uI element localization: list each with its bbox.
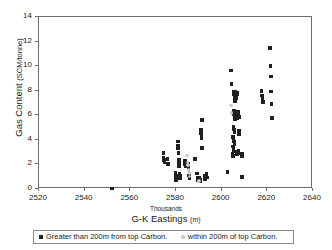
data-point xyxy=(235,96,239,100)
x-tick-label: 2620 xyxy=(246,194,286,202)
x-tick-mark xyxy=(175,188,176,191)
data-point xyxy=(230,111,233,114)
data-point xyxy=(237,133,241,137)
y-tick-label: 8 xyxy=(2,86,32,94)
data-point xyxy=(185,154,188,157)
data-point xyxy=(269,64,273,68)
x-axis-title-text: G-K Eastings xyxy=(131,213,187,224)
data-point xyxy=(166,162,170,166)
x-tick-mark xyxy=(221,188,222,191)
data-point xyxy=(177,164,181,168)
data-point xyxy=(261,100,265,104)
y-tick-label: 6 xyxy=(2,110,32,118)
data-point xyxy=(260,89,264,93)
filled-square-icon xyxy=(39,235,43,239)
legend-label-far: Greater than 200m from top Carbon. xyxy=(46,233,167,241)
x-tick-label: 2580 xyxy=(155,194,195,202)
legend-label-near: within 200m of top Carbon. xyxy=(188,233,278,241)
data-point xyxy=(176,147,180,151)
x-tick-label: 2540 xyxy=(64,194,104,202)
data-point xyxy=(230,82,234,86)
y-tick-label: 2 xyxy=(2,159,32,167)
data-point xyxy=(270,116,274,120)
data-point xyxy=(178,177,182,181)
data-point xyxy=(233,130,237,134)
data-point xyxy=(269,75,273,79)
x-axis-title: G-K Eastings (m) xyxy=(0,213,332,225)
x-tick-label: 2560 xyxy=(109,194,149,202)
data-point xyxy=(200,118,204,122)
data-point xyxy=(162,151,166,155)
data-point xyxy=(270,102,274,106)
data-point xyxy=(200,146,204,150)
y-tick-label: 12 xyxy=(2,37,32,45)
data-point xyxy=(177,151,181,155)
data-points-layer xyxy=(39,17,311,187)
open-circle-icon xyxy=(181,235,185,239)
data-point xyxy=(166,157,170,161)
x-tick-mark xyxy=(312,188,313,191)
x-tick-mark xyxy=(84,188,85,191)
legend-item-far: Greater than 200m from top Carbon. xyxy=(34,233,167,241)
data-point xyxy=(226,170,230,174)
data-point xyxy=(197,179,200,182)
data-point xyxy=(231,154,235,158)
data-point xyxy=(240,175,244,179)
data-point xyxy=(193,157,197,161)
y-tick-label: 4 xyxy=(2,135,32,143)
data-point xyxy=(268,46,272,50)
data-point xyxy=(110,187,114,191)
data-point xyxy=(186,163,189,166)
x-tick-label: 2520 xyxy=(18,194,58,202)
data-point xyxy=(237,115,241,119)
scatter-chart: Gas Content (SCM/tonne) 02468101214 2520… xyxy=(0,0,332,250)
legend-item-near: within 200m of top Carbon. xyxy=(167,233,277,241)
y-tick-label: 14 xyxy=(2,12,32,20)
data-point xyxy=(240,155,244,159)
x-tick-mark xyxy=(129,188,130,191)
data-point xyxy=(233,99,237,103)
x-tick-mark xyxy=(38,188,39,191)
y-tick-label: 10 xyxy=(2,61,32,69)
x-tick-label: 2640 xyxy=(292,194,332,202)
data-point xyxy=(229,69,233,73)
data-point xyxy=(236,93,240,97)
plot-area xyxy=(38,16,312,188)
x-tick-label: 2600 xyxy=(201,194,241,202)
data-point xyxy=(269,90,273,94)
x-tick-mark xyxy=(266,188,267,191)
data-point xyxy=(205,176,209,180)
y-tick-label: 0 xyxy=(2,184,32,192)
chart-legend: Greater than 200m from top Carbon. withi… xyxy=(33,230,294,244)
data-point xyxy=(229,104,232,107)
x-axis-title-unit: (m) xyxy=(190,216,201,223)
x-axis-scale-note: Thousands xyxy=(0,205,332,212)
data-point xyxy=(200,137,204,141)
